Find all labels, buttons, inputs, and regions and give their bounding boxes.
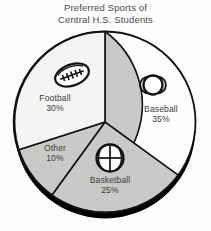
pie-chart-figure: Preferred Sports of Central H.S. Student… bbox=[0, 0, 211, 231]
pie-svg bbox=[0, 0, 211, 231]
basketball-icon bbox=[97, 145, 124, 172]
baseball-icon bbox=[140, 76, 166, 95]
